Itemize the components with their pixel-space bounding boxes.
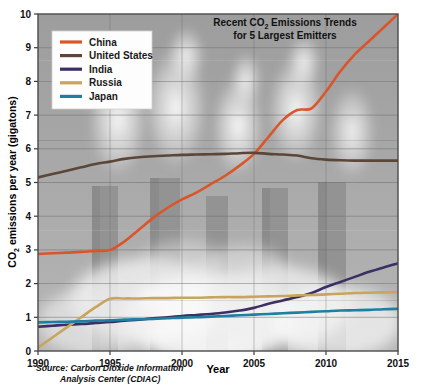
chart-title-line1-post: Emissions Trends bbox=[268, 17, 357, 28]
chart-title-line2: for 5 Largest Emitters bbox=[233, 30, 337, 41]
y-tick-label: 7 bbox=[25, 110, 31, 121]
y-tick-label: 0 bbox=[25, 346, 31, 357]
y-tick-label: 8 bbox=[25, 76, 31, 87]
y-tick-label: 2 bbox=[25, 278, 31, 289]
chart-figure: 199019952000200520102015 012345678910 Ye… bbox=[0, 0, 422, 387]
y-axis-title: CO2 emissions per year (gigatons) bbox=[6, 96, 20, 267]
source-note: Source: Carbon Dioxide Information Analy… bbox=[36, 363, 184, 384]
source-line-2: Analysis Center (CDIAC) bbox=[59, 374, 160, 384]
y-tick-label: 1 bbox=[25, 312, 31, 323]
source-line-1: Source: Carbon Dioxide Information bbox=[36, 363, 184, 373]
y-tick-label: 3 bbox=[25, 244, 31, 255]
y-tick-label: 10 bbox=[20, 9, 32, 20]
x-tick-label: 2005 bbox=[243, 358, 266, 369]
co2-emissions-line-chart: 199019952000200520102015 012345678910 Ye… bbox=[0, 0, 422, 387]
y-tick-labels: 012345678910 bbox=[20, 9, 32, 357]
legend-label-china: China bbox=[89, 37, 117, 48]
legend-label-united-states: United States bbox=[89, 50, 153, 61]
legend-label-japan: Japan bbox=[89, 91, 118, 102]
chart-title-line1-pre: Recent CO bbox=[213, 17, 264, 28]
x-tick-label: 2015 bbox=[387, 358, 410, 369]
svg-text:CO2 emissions per year (gigato: CO2 emissions per year (gigatons) bbox=[6, 96, 20, 267]
legend-label-russia: Russia bbox=[89, 77, 122, 88]
y-axis-title-pre: CO bbox=[6, 252, 18, 268]
y-tick-label: 5 bbox=[25, 177, 31, 188]
x-axis-title: Year bbox=[206, 363, 230, 375]
x-tick-label: 2010 bbox=[315, 358, 338, 369]
legend: ChinaUnited StatesIndiaRussiaJapan bbox=[52, 31, 153, 109]
y-tick-label: 9 bbox=[25, 42, 31, 53]
y-tick-label: 6 bbox=[25, 143, 31, 154]
legend-label-india: India bbox=[89, 64, 113, 75]
y-tick-label: 4 bbox=[25, 211, 31, 222]
y-axis-title-post: emissions per year (gigatons) bbox=[6, 96, 18, 248]
